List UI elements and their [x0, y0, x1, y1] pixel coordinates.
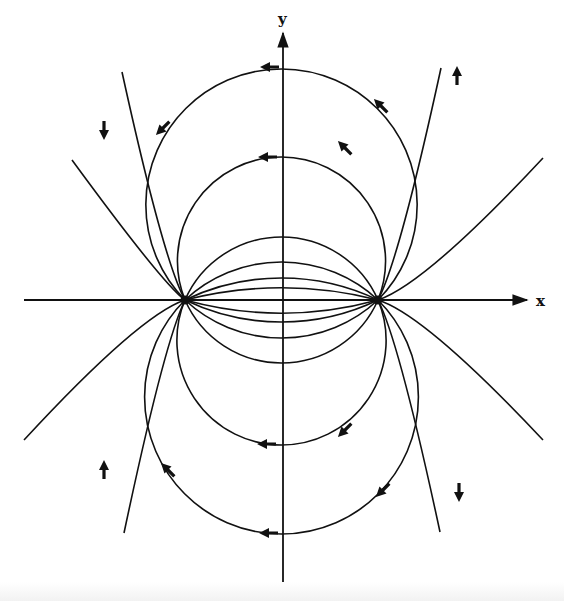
field-line-outer-right-2: [378, 300, 543, 440]
arrow-up-left-icon: [334, 137, 355, 158]
field-line-lower-5: [145, 300, 419, 534]
field-line-upper-2: [185, 237, 378, 300]
field-line-diagram: [0, 0, 564, 601]
field-line-upper-4: [185, 278, 378, 300]
field-line-lower-3: [185, 300, 378, 363]
field-line-lower-1: [185, 300, 378, 322]
field-line-outer-left-3: [124, 300, 185, 533]
field-line-lower-2: [185, 300, 378, 338]
x-axis-label: x: [536, 294, 545, 309]
field-line-outer-left-2: [24, 300, 185, 440]
arrow-up-icon: [99, 460, 109, 479]
left-charge: [181, 296, 190, 305]
field-line-upper-5: [185, 288, 378, 300]
right-charge: [374, 296, 383, 305]
y-axis-label: y: [278, 12, 287, 27]
arrow-down-icon: [454, 483, 464, 502]
arrow-up-icon: [452, 66, 462, 85]
arrow-left-icon: [258, 152, 277, 162]
arrow-left-icon: [259, 528, 278, 538]
scan-edge: [0, 582, 564, 601]
field-line-outer-right-3: [378, 300, 440, 532]
arrow-down-icon: [99, 121, 109, 140]
arrow-left-icon: [257, 439, 276, 449]
